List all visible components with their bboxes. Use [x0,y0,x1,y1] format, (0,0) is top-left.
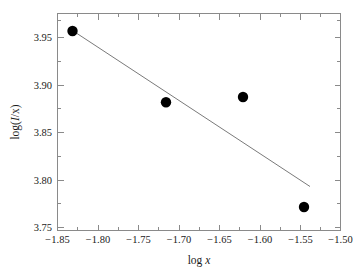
x-tick-label: −1.50 [328,234,352,245]
x-tick-label: −1.80 [86,234,110,245]
x-axis-title-plain: log [188,254,203,267]
x-axis-top-ticks [58,14,321,20]
y-tick-label: 3.80 [34,175,52,186]
y-axis-tick-labels: 3.75 3.80 3.85 3.90 3.95 [34,32,52,233]
plot-frame [58,14,341,231]
y-axis-title: log(I/x) [9,104,22,139]
x-tick-label: −1.65 [207,234,231,245]
y-axis-minor-ticks [58,20,62,204]
y-axis-right-ticks [335,20,341,228]
y-axis-title-suffix: /x) [9,104,22,117]
y-tick-label: 3.75 [34,222,52,233]
data-point-series [67,26,309,212]
y-axis-title-prefix: log( [9,121,22,140]
scatter-plot: −1.85 −1.80 −1.75 −1.70 −1.65 −1.60 −1.5… [0,0,354,278]
linear-fit-line [74,32,310,187]
data-point [67,26,77,36]
y-tick-label: 3.90 [34,80,52,91]
x-tick-label: −1.55 [288,234,312,245]
y-tick-label: 3.85 [34,127,52,138]
x-tick-label: −1.75 [126,234,150,245]
x-axis-tick-labels: −1.85 −1.80 −1.75 −1.70 −1.65 −1.60 −1.5… [45,234,352,245]
y-tick-label: 3.95 [34,32,52,43]
x-axis-minor-ticks [78,227,321,231]
y-axis-major-ticks [58,38,64,228]
x-tick-label: −1.85 [45,234,69,245]
x-axis-title: log x [188,254,212,267]
svg-text:log x: log x [188,254,212,267]
data-point [238,92,248,102]
svg-text:log(I/x): log(I/x) [9,104,22,139]
x-axis-title-italic: x [204,254,211,266]
data-point [299,202,309,212]
x-tick-label: −1.70 [167,234,191,245]
data-point [161,97,171,107]
fit-line-series [74,32,310,187]
x-tick-label: −1.60 [248,234,272,245]
chart-figure: −1.85 −1.80 −1.75 −1.70 −1.65 −1.60 −1.5… [0,0,354,278]
